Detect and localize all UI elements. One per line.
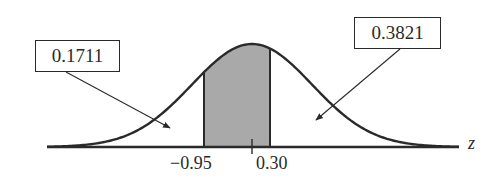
tick-label-right: 0.30 [256,153,288,174]
left-tail-area-box: 0.1711 [35,40,120,72]
right-callout-arrow [316,49,400,120]
axis-label-z: z [468,133,475,154]
right-tail-area-box: 0.3821 [354,17,441,49]
left-callout-arrow [66,72,170,128]
shaded-area [204,44,270,147]
tick-label-left: −0.95 [170,153,212,174]
